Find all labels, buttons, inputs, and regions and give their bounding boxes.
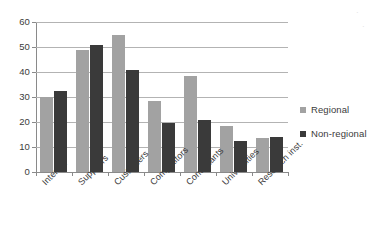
bar-non-regional-universities bbox=[234, 141, 247, 172]
legend-item-non-regional: Non-regional bbox=[300, 128, 380, 139]
legend-label: Regional bbox=[311, 105, 349, 115]
scan-artifact: · bbox=[362, 22, 365, 31]
bar-non-regional-research-inst bbox=[270, 137, 283, 172]
bar-chart: 0102030405060 InternalSuppliersCustomers… bbox=[0, 0, 383, 239]
bar-regional-universities bbox=[220, 126, 233, 172]
bar-groups bbox=[36, 22, 288, 172]
bar-group-suppliers bbox=[72, 22, 107, 172]
y-tick-label-50: 50 bbox=[0, 42, 30, 52]
gridline-0 bbox=[36, 172, 288, 173]
bar-regional-suppliers bbox=[76, 50, 89, 173]
legend-swatch-icon bbox=[300, 131, 306, 137]
legend-swatch-icon bbox=[300, 107, 306, 113]
bar-group-competitors bbox=[144, 22, 179, 172]
x-tick-mark-5 bbox=[216, 172, 217, 176]
x-tick-mark-0 bbox=[36, 172, 37, 176]
bar-non-regional-suppliers bbox=[90, 45, 103, 173]
bar-non-regional-consultants bbox=[198, 120, 211, 173]
scan-artifact: · bbox=[356, 8, 359, 17]
bar-group-universities bbox=[216, 22, 251, 172]
y-tick-label-60: 60 bbox=[0, 17, 30, 27]
legend-item-regional: Regional bbox=[300, 104, 380, 115]
bar-non-regional-customers bbox=[126, 70, 139, 173]
y-tick-label-30: 30 bbox=[0, 92, 30, 102]
bar-regional-consultants bbox=[184, 76, 197, 172]
bar-group-research-inst bbox=[252, 22, 287, 172]
bar-regional-internal bbox=[40, 97, 53, 172]
legend-label: Non-regional bbox=[311, 129, 367, 139]
y-tick-label-0: 0 bbox=[0, 167, 30, 177]
bar-non-regional-internal bbox=[54, 91, 67, 172]
x-tick-mark-4 bbox=[180, 172, 181, 176]
y-tick-label-20: 20 bbox=[0, 117, 30, 127]
chart-legend: RegionalNon-regional bbox=[300, 104, 380, 152]
x-tick-mark-2 bbox=[108, 172, 109, 176]
bar-group-internal bbox=[36, 22, 71, 172]
x-tick-mark-6 bbox=[252, 172, 253, 176]
bar-regional-customers bbox=[112, 35, 125, 173]
bar-non-regional-competitors bbox=[162, 123, 175, 172]
bar-regional-research-inst bbox=[256, 138, 269, 172]
x-tick-mark-end bbox=[288, 172, 289, 176]
bar-regional-competitors bbox=[148, 101, 161, 172]
y-tick-label-40: 40 bbox=[0, 67, 30, 77]
plot-area bbox=[36, 22, 288, 172]
x-tick-mark-3 bbox=[144, 172, 145, 176]
bar-group-consultants bbox=[180, 22, 215, 172]
bar-group-customers bbox=[108, 22, 143, 172]
x-tick-mark-1 bbox=[72, 172, 73, 176]
y-tick-label-10: 10 bbox=[0, 142, 30, 152]
